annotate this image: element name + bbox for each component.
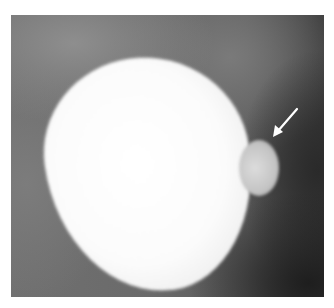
arrow-icon xyxy=(11,15,324,297)
radiograph-image xyxy=(11,15,324,297)
